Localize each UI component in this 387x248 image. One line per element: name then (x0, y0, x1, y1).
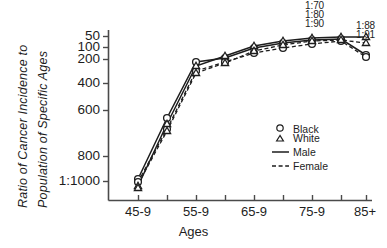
chart-figure: Ratio of Cancer Incidence to Population … (0, 0, 387, 248)
legend-circle-icon (277, 125, 283, 131)
y-tick-label-200: 200 (46, 51, 100, 66)
y-axis-ticks (103, 37, 109, 182)
legend-label-white: White (293, 132, 320, 144)
x-tick-label-65-9: 65-9 (229, 204, 279, 219)
legend-label-male: Male (293, 146, 316, 158)
y-tick-label-400: 400 (46, 75, 100, 90)
markers-circle-black (135, 36, 370, 186)
legend-marks (272, 125, 289, 166)
series-black-male (138, 39, 366, 179)
annotation-1-91: 1:91 (356, 29, 375, 40)
x-tick-label-55-9: 55-9 (171, 204, 221, 219)
x-tick-label-85-plus: 85+ (343, 204, 387, 219)
legend-triangle-icon (277, 136, 284, 142)
y-tick-label-1000: 1:1000 (30, 173, 100, 188)
x-axis-ticks (139, 195, 367, 201)
annotation-1-90: 1:90 (305, 18, 324, 29)
x-tick-label-75-9: 75-9 (287, 204, 337, 219)
y-axis-title-line-1: Ratio of Cancer Incidence to (16, 45, 30, 208)
y-tick-label-600: 600 (46, 102, 100, 117)
x-axis-title: Ages (0, 224, 387, 239)
y-tick-label-800: 800 (46, 148, 100, 163)
axis-lines (109, 30, 373, 201)
series-black-female (138, 41, 366, 182)
series-white-male (138, 37, 366, 186)
x-tick-label-45-9: 45-9 (113, 204, 163, 219)
legend-label-female: Female (293, 160, 328, 172)
